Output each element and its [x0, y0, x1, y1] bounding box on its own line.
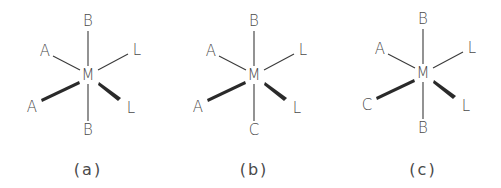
atom-upper-left: A [206, 42, 216, 60]
wedge-bond-lower-left [41, 81, 80, 102]
isomer-diagram: M B A L A L B (a) M B A L A L C (b) M B … [0, 0, 501, 188]
atom-top: B [418, 10, 428, 28]
caption: (c) [409, 160, 436, 179]
bond-upper-left [53, 56, 80, 70]
atom-upper-right: L [299, 41, 307, 59]
atom-lower-left: A [193, 98, 203, 116]
atom-upper-right: L [468, 39, 476, 57]
wedge-bond-lower-left [376, 79, 415, 100]
structure-c: M B A L C L B (c) [362, 10, 476, 179]
wedge-bond-lower-right [433, 80, 456, 99]
atom-upper-left: A [375, 40, 385, 58]
atom-center: M [417, 64, 430, 82]
atom-center: M [248, 66, 261, 84]
atom-upper-left: A [40, 42, 50, 60]
atom-center: M [82, 66, 95, 84]
atom-bottom: B [418, 119, 428, 137]
bond-upper-right [98, 54, 128, 70]
caption: (b) [240, 160, 269, 179]
atom-bottom: C [249, 121, 259, 139]
atom-lower-right: L [293, 99, 301, 117]
caption: (a) [74, 160, 102, 179]
wedge-bond-lower-left [207, 81, 246, 102]
atom-top: B [83, 12, 93, 30]
structure-b: M B A L A L C (b) [193, 12, 307, 179]
atom-top: B [249, 12, 259, 30]
atom-lower-left: C [362, 96, 372, 114]
bond-upper-right [433, 52, 463, 68]
atom-lower-right: L [462, 97, 470, 115]
bond-upper-left [388, 54, 415, 68]
atom-upper-right: L [133, 41, 141, 59]
atom-lower-left: A [27, 98, 37, 116]
wedge-bond-lower-right [264, 82, 287, 101]
atom-bottom: B [83, 121, 93, 139]
atom-lower-right: L [127, 99, 135, 117]
bond-upper-right [264, 54, 294, 70]
bond-upper-left [219, 56, 246, 70]
wedge-bond-lower-right [98, 82, 121, 101]
structure-a: M B A L A L B (a) [27, 12, 141, 179]
